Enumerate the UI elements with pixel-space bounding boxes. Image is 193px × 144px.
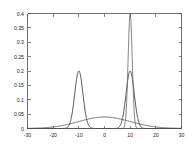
y-tick-label: 0.05 xyxy=(14,111,24,117)
x-tick-label: 10 xyxy=(127,132,133,138)
x-tick-label: -10 xyxy=(75,132,83,138)
y-tick-label: 0.4 xyxy=(17,11,24,17)
x-tick-label: 0 xyxy=(103,132,106,138)
figure-canvas: -30-20-100102030 00.050.10.150.20.250.30… xyxy=(0,0,193,144)
x-tick-label: -20 xyxy=(49,132,57,138)
y-tick-label: 0.1 xyxy=(17,97,24,103)
figure-background xyxy=(0,0,193,144)
x-tick-label: 20 xyxy=(153,132,159,138)
y-tick-label: 0.25 xyxy=(14,54,24,60)
x-tick-label: -30 xyxy=(24,132,32,138)
y-tick-label: 0.3 xyxy=(17,39,24,45)
y-tick-label: 0 xyxy=(21,126,24,132)
x-tick-label: 30 xyxy=(179,132,185,138)
y-tick-label: 0.15 xyxy=(14,82,24,88)
y-tick-label: 0.2 xyxy=(17,68,24,74)
plot-area: -30-20-100102030 00.050.10.150.20.250.30… xyxy=(0,0,193,144)
y-tick-label: 0.35 xyxy=(14,25,24,31)
